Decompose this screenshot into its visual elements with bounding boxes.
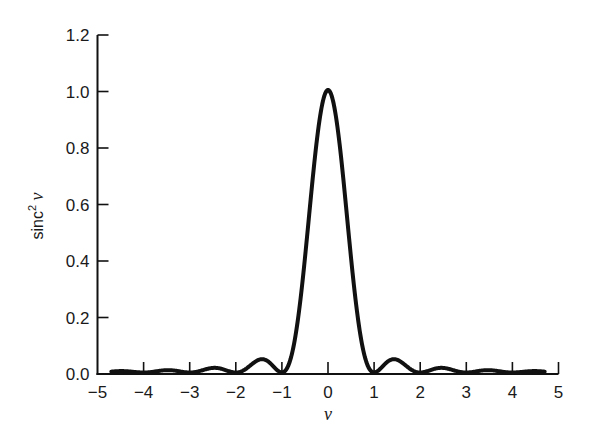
tick-labels: 0.00.20.40.60.81.01.2−5−4−3−2−1012345 <box>66 26 563 402</box>
sinc-squared-curve <box>111 90 544 373</box>
x-tick-label: 1 <box>369 383 378 402</box>
y-tick-label: 0.2 <box>66 309 90 328</box>
y-tick-label: 0.8 <box>66 139 90 158</box>
y-axis-label: sinc2 ν <box>26 192 47 239</box>
ticks <box>98 35 559 374</box>
x-tick-label: −3 <box>180 383 199 402</box>
svg-text:sinc2 ν: sinc2 ν <box>26 192 47 239</box>
y-tick-label: 0.6 <box>66 196 90 215</box>
x-tick-label: 4 <box>508 383 517 402</box>
y-axis-label-var: ν <box>27 192 47 200</box>
y-tick-label: 1.2 <box>66 26 90 45</box>
x-tick-label: 2 <box>415 383 424 402</box>
y-tick-label: 0.0 <box>66 365 90 384</box>
x-tick-label: 5 <box>554 383 563 402</box>
x-tick-label: 0 <box>323 383 332 402</box>
y-tick-label: 1.0 <box>66 83 90 102</box>
x-tick-label: 3 <box>462 383 471 402</box>
sinc-squared-chart: 0.00.20.40.60.81.01.2−5−4−3−2−1012345 ν … <box>0 0 590 444</box>
y-axis-label-main: sinc <box>29 211 46 239</box>
x-tick-label: −4 <box>134 383 153 402</box>
x-tick-label: −5 <box>88 383 107 402</box>
x-axis-label: ν <box>324 404 332 424</box>
y-tick-label: 0.4 <box>66 252 90 271</box>
x-tick-label: −2 <box>226 383 245 402</box>
x-tick-label: −1 <box>272 383 291 402</box>
axes <box>97 35 559 375</box>
